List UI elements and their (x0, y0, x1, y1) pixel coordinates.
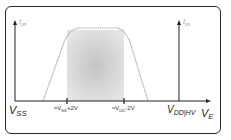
right-axis-label: Ios (183, 18, 190, 27)
left-axis-arrow-icon (13, 20, 17, 25)
tick-label-vdd-hv: VDD|HV (167, 104, 195, 116)
tick-label-vss-plus-2v: ≈VSS+2V (54, 105, 78, 113)
x-axis-label: VE (201, 107, 213, 121)
tick-label-vdd-minus-2v: ≈VDD-2V (112, 105, 135, 113)
x-axis-arrow-icon (206, 99, 211, 103)
diagram-canvas (0, 0, 231, 140)
left-axis-label: Ion (19, 18, 26, 27)
right-axis-arrow-icon (177, 20, 181, 25)
tick-label-vss: VSS (9, 104, 27, 118)
operating-region (67, 30, 124, 101)
